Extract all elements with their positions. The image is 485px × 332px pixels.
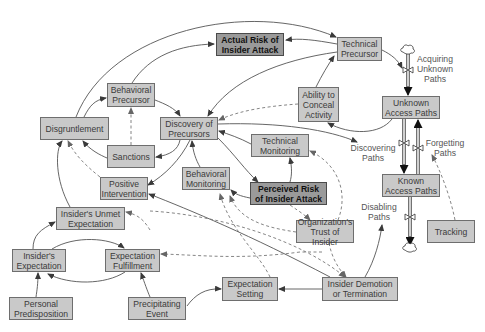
- node-insider-demotion: Insider Demotion or Termination: [322, 277, 398, 301]
- edge-demotion-disabling: [365, 225, 382, 277]
- sink-cloud-icon: [403, 243, 417, 252]
- node-expectation-fulfillment: Expectation Fulfillment: [105, 249, 160, 272]
- edge-unmet-disgruntlement: [57, 141, 70, 207]
- edge-trust-fulfillment: [161, 252, 322, 256]
- edge-event-fulfillment: [141, 273, 150, 297]
- edge-behavioral-actual-risk: [132, 44, 214, 83]
- node-behavioral-monitoring: Behavioral Monitoring: [182, 167, 230, 190]
- node-ability-to-conceal: Ability to Conceal Activity: [298, 87, 339, 122]
- edge-sanctions-disgruntlement: [83, 141, 107, 158]
- edge-behmon-discovery: [192, 141, 200, 167]
- node-organizations-trust: Organization's Trust of Insider: [296, 220, 354, 243]
- edge-technical-acquiring: [382, 50, 402, 68]
- edge-predisposition-expectation: [36, 273, 38, 297]
- edge-behavioral-discovery: [155, 100, 180, 116]
- node-disgruntlement: Disgruntlement: [40, 117, 109, 140]
- edge-techmon-discovery: [219, 131, 251, 144]
- node-behavioral-precursor: Behavioral Precursor: [107, 83, 155, 107]
- edge-trust-demotion: [329, 243, 346, 277]
- node-personal-predisposition: Personal Predisposition: [9, 297, 73, 320]
- node-known-access-paths: Known Access Paths: [382, 174, 440, 197]
- node-precipitating-event: Precipitating Event: [128, 297, 186, 320]
- node-discovery-of-precursors: Discovery of Precursors: [160, 117, 218, 140]
- edge-conceal-discovery: [219, 104, 298, 120]
- edge-event-setting: [187, 289, 221, 306]
- node-positive-intervention: Positive Intervention: [100, 177, 148, 200]
- edge-positive-disgruntlement: [68, 141, 100, 177]
- node-insiders-expectation: Insider's Expectation: [12, 249, 66, 272]
- node-sanctions: Sanctions: [107, 145, 155, 168]
- edge-disgruntlement-behavioral: [84, 98, 106, 117]
- edge-technical-actual-risk: [286, 39, 337, 44]
- edge-perceived-techmon: [290, 158, 292, 182]
- flow-label-forgetting: Forgetting Paths: [424, 138, 466, 158]
- flow-label-acquiring: Acquiring Unknown Paths: [417, 54, 453, 84]
- node-perceived-risk: Perceived Risk of Insider Attack: [250, 182, 327, 205]
- node-unknown-access-paths: Unknown Access Paths: [382, 96, 440, 119]
- edge-fulfillment-unmet: [126, 212, 150, 230]
- source-cloud-icon: [401, 45, 415, 54]
- edge-setting-behmon: [220, 194, 270, 277]
- node-technical-monitoring: Technical Monitoring: [251, 134, 309, 157]
- node-actual-risk: Actual Risk of Insider Attack: [216, 33, 284, 56]
- edge-fulfillment-expectation: [48, 272, 125, 282]
- flow-label-discovering: Discovering Paths: [350, 143, 396, 163]
- edge-expectation-fulfillment: [52, 239, 124, 249]
- node-expectation-setting: Expectation Setting: [222, 277, 278, 301]
- edge-perceived-behmon: [231, 190, 250, 198]
- flow-label-disabling: Disabling Paths: [359, 202, 399, 222]
- edge-expectation-unmet: [33, 222, 55, 249]
- node-insiders-unmet-expectation: Insider's Unmet Expectation: [56, 207, 125, 230]
- node-technical-precursor: Technical Precursor: [337, 37, 382, 61]
- node-tracking: Tracking: [427, 220, 475, 243]
- edge-discovery-sanctions: [156, 140, 180, 157]
- edge-conceal-technical: [316, 56, 334, 87]
